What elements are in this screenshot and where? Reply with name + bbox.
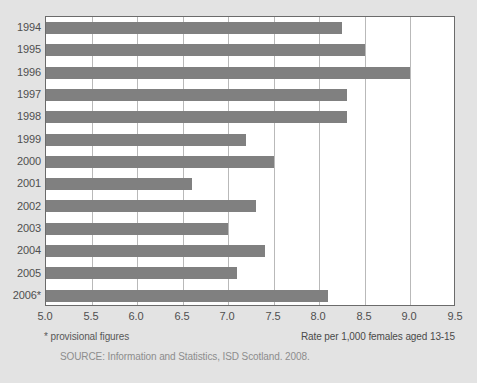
plot-area (45, 16, 455, 306)
bar-1999 (46, 134, 246, 146)
x-tick-label-8.5: 8.5 (344, 309, 384, 323)
y-tick-label-1997: 1997 (0, 88, 41, 100)
x-tick-label-8.0: 8.0 (298, 309, 338, 323)
bar-1994 (46, 22, 342, 34)
y-tick-label-1994: 1994 (0, 21, 41, 33)
bar-2001 (46, 178, 192, 190)
y-tick-label-2005: 2005 (0, 267, 41, 279)
bar-2006 (46, 290, 328, 302)
source-note: SOURCE: Information and Statistics, ISD … (60, 350, 310, 363)
y-tick-label-2001: 2001 (0, 177, 41, 189)
bars-layer (46, 17, 454, 305)
x-tick-label-7.0: 7.0 (207, 309, 247, 323)
bar-2004 (46, 245, 265, 257)
y-tick-label-1999: 1999 (0, 133, 41, 145)
provisional-figures-footnote: * provisional figures (44, 330, 129, 343)
bar-2003 (46, 223, 228, 235)
y-tick-label-1995: 1995 (0, 43, 41, 55)
bar-2002 (46, 200, 256, 212)
x-tick-label-9.0: 9.0 (389, 309, 429, 323)
x-tick-label-7.5: 7.5 (253, 309, 293, 323)
y-tick-label-2003: 2003 (0, 222, 41, 234)
bar-1996 (46, 67, 410, 79)
x-tick-label-9.5: 9.5 (435, 309, 475, 323)
x-tick-label-6.0: 6.0 (116, 309, 156, 323)
y-axis-category-labels: 1994199519961997199819992000200120022003… (0, 16, 41, 306)
x-tick-label-5.0: 5.0 (25, 309, 65, 323)
bar-1997 (46, 89, 347, 101)
y-tick-label-2004: 2004 (0, 244, 41, 256)
y-tick-label-2000: 2000 (0, 155, 41, 167)
y-tick-label-2006: 2006* (0, 289, 41, 301)
bar-2000 (46, 156, 274, 168)
x-axis-unit-label: Rate per 1,000 females aged 13-15 (301, 330, 455, 343)
x-tick-label-5.5: 5.5 (71, 309, 111, 323)
y-tick-label-2002: 2002 (0, 200, 41, 212)
x-tick-label-6.5: 6.5 (162, 309, 202, 323)
bar-1998 (46, 111, 347, 123)
bar-2005 (46, 267, 237, 279)
y-tick-label-1996: 1996 (0, 66, 41, 78)
y-tick-label-1998: 1998 (0, 110, 41, 122)
bar-1995 (46, 44, 365, 56)
x-axis-tick-labels: 5.05.56.06.57.07.58.08.59.09.5 (45, 309, 455, 325)
bar-chart-figure: 1994199519961997199819992000200120022003… (0, 0, 477, 383)
